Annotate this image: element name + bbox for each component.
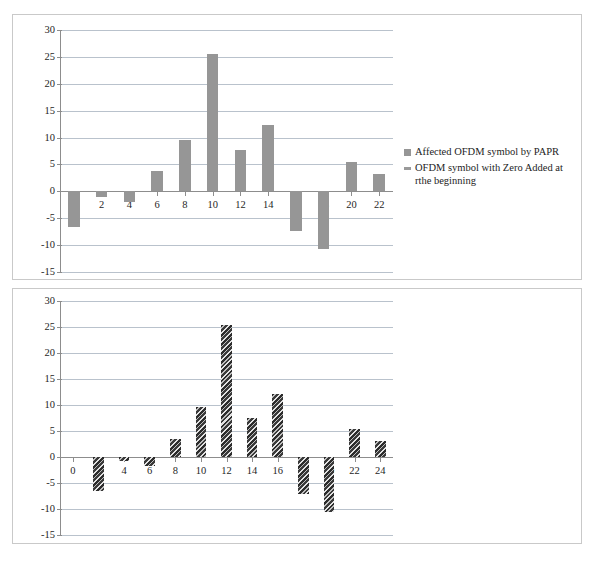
bar <box>318 191 330 249</box>
x-tick-label: 22 <box>349 466 360 477</box>
legend-label-0: Affected OFDM symbol by PAPR <box>415 146 572 159</box>
bar <box>346 162 358 192</box>
x-tick <box>252 458 253 462</box>
y-tick <box>57 245 62 246</box>
x-axis-bottom <box>60 457 393 458</box>
bar <box>324 457 335 512</box>
bar <box>179 140 191 191</box>
legend-swatch-icon-solid <box>404 149 411 156</box>
x-tick-label: 20 <box>346 200 357 211</box>
y-tick <box>57 353 62 354</box>
y-tick-label: 10 <box>45 400 56 411</box>
y-tick-label: 0 <box>50 186 55 197</box>
y-tick-label: 30 <box>45 25 56 36</box>
figure-page: 302520151050-5-10-15 0246810121416182022… <box>0 0 594 562</box>
x-tick-label: 14 <box>263 200 274 211</box>
bar <box>262 125 274 191</box>
y-tick-label: 5 <box>50 159 55 170</box>
y-tick-label: 25 <box>45 52 56 63</box>
x-tick <box>379 192 380 196</box>
x-tick-label: 6 <box>155 200 160 211</box>
x-tick <box>227 458 228 462</box>
gridline <box>60 218 393 219</box>
x-tick <box>213 192 214 196</box>
gridline <box>60 535 393 536</box>
x-tick-label: 12 <box>235 200 246 211</box>
x-tick-label: 2 <box>99 200 104 211</box>
x-tick-label: 12 <box>221 466 232 477</box>
x-tick-label: 10 <box>207 200 218 211</box>
y-tick-label: 15 <box>45 374 56 385</box>
y-tick-label: -10 <box>41 504 55 515</box>
bar <box>290 191 302 230</box>
y-tick-label: 0 <box>50 452 55 463</box>
gridline <box>60 483 393 484</box>
x-tick <box>380 458 381 462</box>
y-tick-label: 15 <box>45 105 56 116</box>
legend-label-1: OFDM symbol with Zero Added at rthe begi… <box>415 162 572 188</box>
y-tick <box>57 535 62 536</box>
gridline <box>60 509 393 510</box>
y-tick-label: -15 <box>41 530 55 541</box>
x-tick <box>240 192 241 196</box>
bar <box>68 191 80 226</box>
plot-area-top: 302520151050-5-10-15 0246810121416182022 <box>60 30 393 272</box>
bar <box>170 439 181 457</box>
bar <box>247 418 258 457</box>
gridline <box>60 57 393 58</box>
x-tick <box>278 458 279 462</box>
y-tick <box>57 111 62 112</box>
x-tick <box>351 192 352 196</box>
gridline <box>60 111 393 112</box>
legend-item-0: Affected OFDM symbol by PAPR <box>404 146 572 159</box>
x-tick-label: 8 <box>182 200 187 211</box>
x-tick-label: 8 <box>173 466 178 477</box>
bar <box>124 191 136 201</box>
bar <box>207 54 219 191</box>
gridline <box>60 30 393 31</box>
x-tick <box>268 192 269 196</box>
bar <box>235 150 247 191</box>
y-tick-label: 25 <box>45 322 56 333</box>
x-tick-label: 24 <box>375 466 386 477</box>
y-axis-top: 302520151050-5-10-15 <box>60 30 61 272</box>
bar <box>151 171 163 191</box>
bar <box>119 457 130 461</box>
y-tick-label: 20 <box>45 79 56 90</box>
x-tick <box>185 192 186 196</box>
y-tick-label: 20 <box>45 348 56 359</box>
bar <box>96 191 108 196</box>
plot-area-bottom: 302520151050-5-10-15 0246810121416182022… <box>60 301 393 535</box>
y-tick <box>57 218 62 219</box>
gridline <box>60 301 393 302</box>
x-tick-label: 10 <box>196 466 207 477</box>
x-tick-label: 0 <box>70 466 75 477</box>
y-tick <box>57 84 62 85</box>
y-tick-label: 5 <box>50 426 55 437</box>
chart-panel-bottom: 302520151050-5-10-15 0246810121416182022… <box>12 288 582 544</box>
y-tick <box>57 483 62 484</box>
bar <box>272 394 283 457</box>
x-tick-label: 22 <box>374 200 385 211</box>
y-tick-label: -5 <box>46 478 55 489</box>
legend-swatch-icon-hatch <box>404 167 411 170</box>
gridline <box>60 138 393 139</box>
gridline <box>60 84 393 85</box>
y-tick-label: -10 <box>41 240 55 251</box>
y-tick <box>57 431 62 432</box>
x-axis-top <box>60 191 393 192</box>
y-tick <box>57 405 62 406</box>
y-tick <box>57 57 62 58</box>
bar <box>196 407 207 457</box>
y-tick <box>57 379 62 380</box>
x-tick <box>175 458 176 462</box>
y-tick-label: 30 <box>45 296 56 307</box>
x-tick <box>355 458 356 462</box>
y-axis-bottom: 302520151050-5-10-15 <box>60 301 61 535</box>
x-tick-label: 4 <box>121 466 126 477</box>
legend-item-1: OFDM symbol with Zero Added at rthe begi… <box>404 162 572 188</box>
y-tick-label: -15 <box>41 267 55 278</box>
y-tick <box>57 509 62 510</box>
bar <box>375 441 386 457</box>
bar <box>349 429 360 457</box>
